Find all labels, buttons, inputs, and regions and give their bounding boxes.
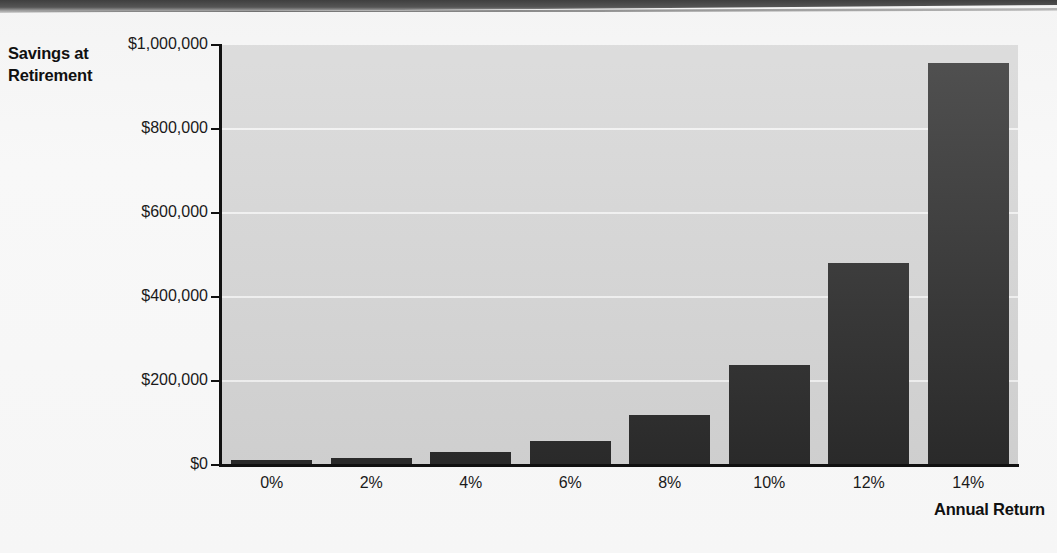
- x-axis-tick-label: 12%: [829, 474, 909, 492]
- y-axis-tick: [211, 128, 222, 130]
- y-axis-tick-label: $1,000,000: [108, 35, 208, 53]
- plot-area: [222, 45, 1018, 465]
- y-axis-tick: [211, 296, 222, 298]
- y-axis-tick: [211, 212, 222, 214]
- y-axis-tick-label: $600,000: [108, 203, 208, 221]
- y-axis-tick-label: $0: [108, 455, 208, 473]
- x-axis-tick-label: 2%: [331, 474, 411, 492]
- x-axis-tick-label: 10%: [729, 474, 809, 492]
- x-axis-tick-label: 14%: [928, 474, 1008, 492]
- bar: [629, 415, 710, 465]
- gridline: [222, 128, 1018, 130]
- x-axis-tick-label: 8%: [630, 474, 710, 492]
- chart-page: Savings at Retirement Annual Return $1,0…: [0, 0, 1057, 553]
- y-axis-tick: [211, 380, 222, 382]
- y-axis-tick-label: $400,000: [108, 287, 208, 305]
- y-axis-tick: [211, 464, 222, 466]
- x-axis-tick-label: 6%: [530, 474, 610, 492]
- x-axis-tick-label: 0%: [232, 474, 312, 492]
- bar: [729, 365, 810, 465]
- y-axis-tick-label: $200,000: [108, 371, 208, 389]
- bar: [530, 441, 611, 465]
- y-axis-line: [219, 44, 222, 466]
- bar: [828, 263, 909, 465]
- gridline: [222, 212, 1018, 214]
- x-axis-tick-label: 4%: [431, 474, 511, 492]
- y-axis-tick-label: $800,000: [108, 119, 208, 137]
- x-axis-title: Annual Return: [934, 500, 1045, 519]
- y-axis-tick: [211, 44, 222, 46]
- y-axis-tick-labels: $1,000,000$800,000$600,000$400,000$200,0…: [96, 0, 208, 553]
- bar: [928, 63, 1009, 465]
- x-axis-line: [219, 464, 1019, 467]
